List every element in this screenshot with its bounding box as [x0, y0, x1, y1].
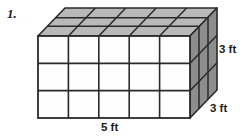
width-dimension-label: 5 ft — [101, 122, 118, 134]
top-face — [38, 8, 217, 36]
front-face — [38, 36, 190, 118]
top-face-surface — [38, 8, 217, 36]
front-face-surface — [38, 36, 190, 118]
figure-container: 1. — [0, 0, 251, 138]
height-dimension-label: 3 ft — [219, 44, 236, 56]
rectangular-prism-diagram — [0, 0, 251, 138]
depth-dimension-label: 3 ft — [210, 103, 227, 115]
